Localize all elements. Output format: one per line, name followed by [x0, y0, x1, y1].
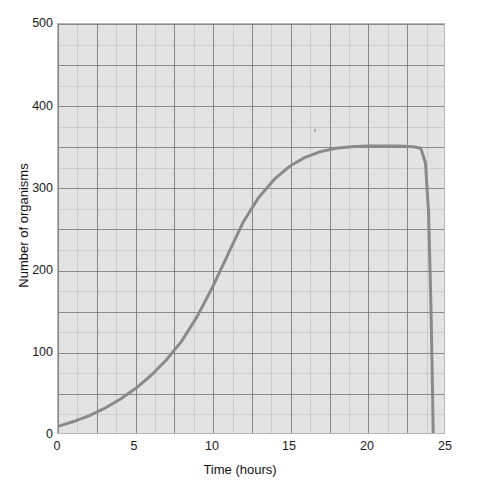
- growth-curve-chart: 500 400 300 200 100 0 0 5 10 15 20 25 Ti…: [0, 0, 480, 494]
- x-tick-25: 25: [425, 439, 465, 453]
- x-tick-5: 5: [114, 439, 154, 453]
- y-tick-100: 100: [9, 345, 53, 359]
- plot-area: [57, 23, 445, 434]
- y-tick-400: 400: [9, 99, 53, 113]
- scan-speck-artifact: [314, 129, 316, 132]
- y-tick-500: 500: [9, 16, 53, 30]
- y-axis-title: Number of organisms: [16, 126, 31, 326]
- curve-layer: [58, 24, 444, 433]
- x-tick-20: 20: [347, 439, 387, 453]
- growth-curve-line: [58, 146, 433, 433]
- x-tick-10: 10: [192, 439, 232, 453]
- x-tick-15: 15: [269, 439, 309, 453]
- x-tick-0: 0: [37, 439, 77, 453]
- x-axis-title: Time (hours): [0, 462, 480, 477]
